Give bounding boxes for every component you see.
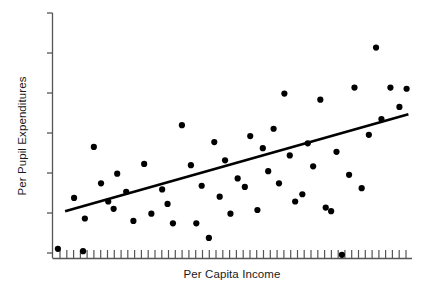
data-point — [227, 211, 233, 217]
data-point — [328, 208, 334, 214]
data-point — [111, 206, 117, 212]
x-axis-label: Per Capita Income — [184, 268, 281, 280]
data-point — [235, 175, 241, 181]
data-point — [305, 140, 311, 146]
regression-trendline — [65, 114, 408, 211]
data-point — [270, 126, 276, 132]
axes-group — [53, 13, 413, 259]
data-point — [346, 172, 352, 178]
data-point — [396, 104, 402, 110]
data-point — [170, 220, 176, 226]
data-point — [260, 145, 266, 151]
data-point — [351, 84, 357, 90]
data-point — [265, 168, 271, 174]
data-point — [179, 122, 185, 128]
data-point — [193, 220, 199, 226]
data-point — [55, 246, 61, 252]
data-point — [404, 86, 410, 92]
y-axis-ticks — [47, 13, 53, 253]
scatter-plot-figure: Per Capita Income Per Pupil Expenditures — [0, 0, 427, 291]
data-point — [287, 152, 293, 158]
trendline-segment — [65, 114, 408, 211]
data-point — [217, 194, 223, 200]
data-point — [333, 149, 339, 155]
data-point — [222, 157, 228, 163]
data-point — [339, 252, 345, 258]
data-point — [206, 235, 212, 241]
y-axis-label: Per Pupil Expenditures — [16, 76, 28, 195]
data-point — [141, 161, 147, 167]
data-point — [359, 185, 365, 191]
data-point — [366, 132, 372, 138]
scatter-points — [55, 44, 410, 258]
data-point — [71, 195, 77, 201]
data-point — [130, 218, 136, 224]
plot-canvas: Per Capita Income Per Pupil Expenditures — [0, 0, 427, 291]
x-axis-ticks — [60, 250, 406, 259]
data-point — [317, 97, 323, 103]
data-point — [323, 204, 329, 210]
data-point — [281, 91, 287, 97]
data-point — [242, 184, 248, 190]
data-point — [276, 180, 282, 186]
data-point — [98, 180, 104, 186]
data-point — [199, 183, 205, 189]
data-point — [299, 191, 305, 197]
data-point — [105, 198, 111, 204]
data-point — [148, 211, 154, 217]
data-point — [91, 144, 97, 150]
data-point — [82, 215, 88, 221]
data-point — [387, 84, 393, 90]
data-point — [114, 171, 120, 177]
data-point — [292, 198, 298, 204]
data-point — [373, 44, 379, 50]
data-point — [123, 189, 129, 195]
data-point — [378, 116, 384, 122]
data-point — [188, 162, 194, 168]
data-point — [310, 163, 316, 169]
data-point — [247, 133, 253, 139]
data-point — [211, 139, 217, 145]
data-point — [164, 201, 170, 207]
data-point — [80, 248, 86, 254]
data-point — [159, 186, 165, 192]
data-point — [254, 207, 260, 213]
